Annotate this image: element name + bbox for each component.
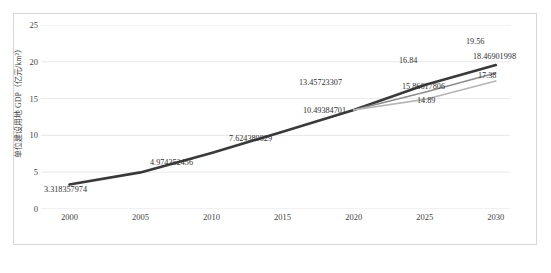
- label-2030-mid: 18.46901998: [473, 53, 516, 61]
- plot-area: 3.3183579744.9743524567.62438982910.4938…: [41, 25, 510, 209]
- x-tick-label: 2005: [115, 212, 165, 222]
- y-tick-label: 0: [16, 205, 38, 214]
- y-tick-label: 10: [16, 131, 38, 140]
- x-tick-label: 2000: [44, 212, 94, 222]
- chart-canvas: [41, 25, 510, 209]
- chart-figure: 单位建设用地 GDP（亿元/km²） 0510152025 3.31835797…: [0, 0, 551, 273]
- gridlines: [41, 25, 510, 209]
- label-2005: 4.974352456: [150, 159, 193, 167]
- label-2000: 3.318357974: [44, 186, 87, 194]
- y-tick-label: 20: [16, 58, 38, 67]
- x-tick-label: 2025: [400, 212, 450, 222]
- x-tick-label: 2015: [258, 212, 308, 222]
- label-2025-high: 16.84: [399, 57, 417, 65]
- label-2030-high: 19.56: [466, 38, 484, 46]
- label-2010: 7.624389829: [229, 135, 272, 143]
- label-2030-low: 17.38: [478, 72, 496, 80]
- label-2025-mid: 15.86617806: [402, 83, 445, 91]
- x-axis-tick-labels: 2000200520102015202020252030: [41, 212, 510, 228]
- y-tick-label: 15: [16, 94, 38, 103]
- y-tick-label: 5: [16, 168, 38, 177]
- label-2015: 10.49384701: [303, 107, 346, 115]
- x-tick-label: 2020: [329, 212, 379, 222]
- x-tick-label: 2030: [471, 212, 521, 222]
- y-tick-label: 25: [16, 21, 38, 30]
- y-axis-tick-labels: 0510152025: [10, 25, 38, 209]
- label-2020: 13.45723307: [299, 79, 342, 87]
- label-2025-low: 14.89: [417, 97, 435, 105]
- x-tick-label: 2010: [187, 212, 237, 222]
